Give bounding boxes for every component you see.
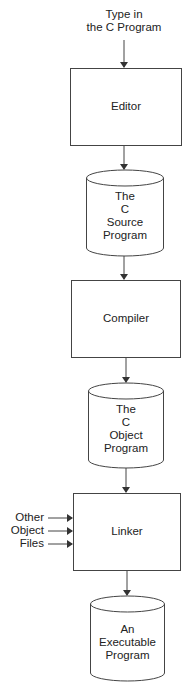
source-line-4: Program [86,229,164,242]
exec-line-3: Program [90,649,165,662]
compiler-text: Compiler [71,312,181,325]
side-input-object: Object [0,524,44,537]
object-line-1: The [88,403,164,416]
exec-line-1: An [90,623,165,636]
object-line-2: C [88,416,164,429]
source-line-2: C [86,203,164,216]
source-line-1: The [86,190,164,203]
input-label-line-2: the C Program [74,21,174,34]
editor-label: Editor [70,100,182,113]
editor-text: Editor [70,100,182,113]
source-line-3: Source [86,216,164,229]
object-program-label: The C Object Program [88,403,164,455]
side-input-files: Files [0,537,44,550]
input-label-line-1: Type in [74,8,174,21]
exec-line-2: Executable [90,636,165,649]
linker-label: Linker [73,525,181,538]
compiler-label: Compiler [71,312,181,325]
object-line-3: Object [88,429,164,442]
object-line-4: Program [88,442,164,455]
source-program-label: The C Source Program [86,190,164,242]
side-inputs-label: Other Object Files [0,511,44,550]
executable-program-label: An Executable Program [90,623,165,662]
linker-text: Linker [73,525,181,538]
input-label: Type in the C Program [74,8,174,34]
side-input-other: Other [0,511,44,524]
